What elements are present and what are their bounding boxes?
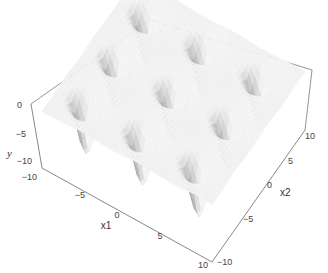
z-tick-2: −10 <box>17 156 32 166</box>
x2-tick-2: 0 <box>267 180 272 190</box>
surface-plot: 0 −5 −10 y −10 −5 0 5 10 x1 −10 −5 0 5 1… <box>0 0 328 273</box>
z-tick-1: −5 <box>16 129 26 139</box>
x1-tick-4: 10 <box>198 260 208 270</box>
surface-mesh <box>42 0 305 217</box>
x2-tick-0: −10 <box>217 257 232 267</box>
x1-tick-3: 5 <box>157 231 162 241</box>
x2-tick-4: 10 <box>305 131 315 141</box>
z-axis: 0 −5 −10 y <box>6 100 32 166</box>
x2-tick-3: 5 <box>288 156 293 166</box>
x2-axis-label: x2 <box>280 187 291 198</box>
x1-tick-1: −5 <box>75 190 85 200</box>
x2-tick-1: −5 <box>243 214 253 224</box>
x1-tick-0: −10 <box>22 172 37 182</box>
x1-tick-2: 0 <box>114 210 119 220</box>
z-tick-0: 0 <box>17 100 22 110</box>
z-axis-label: y <box>6 147 12 159</box>
x1-axis-label: x1 <box>101 220 112 231</box>
